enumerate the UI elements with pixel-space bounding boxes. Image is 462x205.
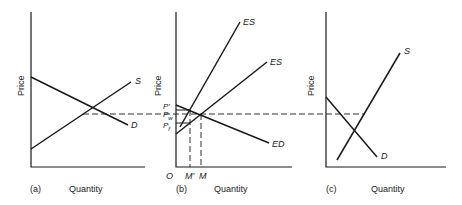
panel-c-y-label: Price bbox=[306, 75, 316, 96]
panel-c-d-label: D bbox=[381, 151, 388, 161]
trade-diagram: Price S D (a) Quantity Price ES ES ED P'… bbox=[0, 0, 462, 205]
panel-a-axes bbox=[31, 12, 145, 167]
panel-b-es-flat-label: ES bbox=[270, 57, 282, 67]
panel-c-x-label: Quantity bbox=[371, 184, 405, 194]
panel-c-tag: (c) bbox=[326, 184, 337, 194]
diagram-lines bbox=[0, 0, 462, 205]
panel-a-x-label: Quantity bbox=[69, 184, 103, 194]
panel-a-d-label: D bbox=[131, 120, 138, 130]
panel-b-mprime-label: M' bbox=[185, 171, 194, 181]
panel-b-m-label: M bbox=[199, 171, 207, 181]
panel-c-supply-curve bbox=[337, 53, 400, 160]
panel-a-s-label: S bbox=[135, 76, 141, 86]
panel-b-ed-label: ED bbox=[272, 139, 285, 149]
panel-b-tag: (b) bbox=[176, 184, 187, 194]
panel-b-pf-label: Pf bbox=[163, 121, 170, 132]
panel-b-origin-label: O bbox=[166, 171, 173, 181]
panel-b-es-steep-label: ES bbox=[243, 17, 255, 27]
panel-c-s-label: S bbox=[404, 46, 410, 56]
panel-b-x-label: Quantity bbox=[214, 184, 248, 194]
panel-b-y-label: Price bbox=[153, 75, 163, 96]
panel-b-pw-label: Pw bbox=[163, 110, 173, 121]
panel-a-demand-curve bbox=[31, 77, 128, 125]
panel-a-supply-curve bbox=[31, 82, 131, 149]
panel-b-es-steep-curve bbox=[180, 22, 240, 127]
panel-c-axes bbox=[326, 12, 446, 167]
panel-a-y-label: Price bbox=[16, 75, 26, 96]
panel-a-tag: (a) bbox=[30, 184, 41, 194]
